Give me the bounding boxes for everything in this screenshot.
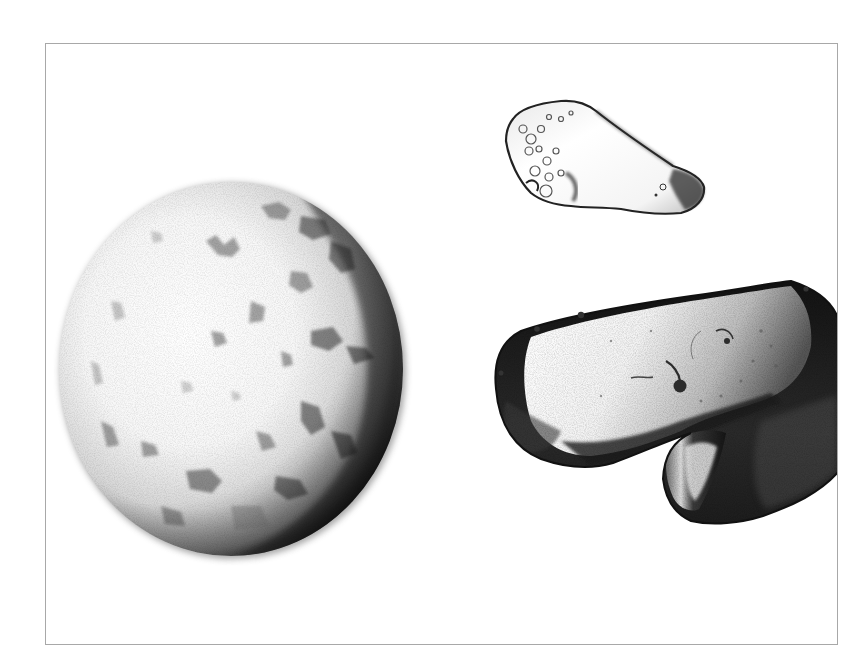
specimen-photo [45,43,838,645]
figure-canvas: Grayscale photograph of three specimens … [0,0,862,669]
figure-frame: Grayscale photograph of three specimens … [45,43,838,645]
small-fragment-specimen [506,101,704,214]
large-fragment-specimen [481,271,838,541]
sphere-specimen [58,181,406,559]
